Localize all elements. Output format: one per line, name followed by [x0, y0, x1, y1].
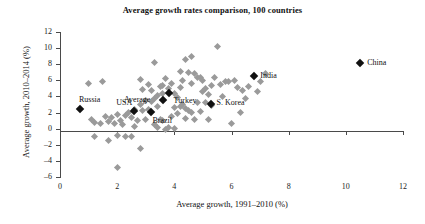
data-point — [179, 77, 186, 84]
data-point — [228, 120, 235, 127]
data-point — [96, 119, 103, 126]
data-point — [237, 109, 244, 116]
data-point — [191, 116, 198, 123]
y-tick-mark — [56, 96, 60, 97]
data-point — [177, 84, 184, 91]
data-point-label: Turkey — [174, 97, 197, 105]
scatter-chart: Average growth rates comparison, 100 cou… — [0, 0, 425, 224]
y-tick-mark — [56, 145, 60, 146]
data-point — [162, 75, 169, 82]
x-tick-label: 6 — [217, 182, 247, 191]
x-tick-mark — [232, 131, 233, 135]
y-tick-mark — [56, 161, 60, 162]
data-point — [211, 74, 218, 81]
x-tick-label: 12 — [388, 182, 418, 191]
data-point-label: India — [260, 72, 276, 80]
data-point-highlighted — [207, 99, 215, 107]
data-point — [136, 76, 143, 83]
data-point — [91, 133, 98, 140]
data-point — [142, 116, 149, 123]
y-tick-mark — [56, 177, 60, 178]
data-point — [199, 77, 206, 84]
data-point-label: Average — [124, 96, 151, 104]
chart-title: Average growth rates comparison, 100 cou… — [0, 5, 425, 15]
x-axis-title: Average growth, 1991–2010 (%) — [60, 199, 404, 209]
data-point-label: Brazil — [152, 117, 172, 125]
data-point — [214, 43, 221, 50]
x-tick-label: 10 — [331, 182, 361, 191]
x-tick-mark — [289, 131, 290, 135]
x-tick-label: 0 — [45, 182, 75, 191]
data-point — [245, 83, 252, 90]
data-point — [188, 80, 195, 87]
data-point — [128, 133, 135, 140]
x-tick-mark — [403, 131, 404, 135]
y-axis-title: Average growth, 2010–2014 (%) — [21, 27, 31, 177]
data-point — [205, 116, 212, 123]
data-point — [177, 68, 184, 75]
x-tick-mark — [60, 131, 61, 135]
data-point — [99, 78, 106, 85]
x-tick-label: 4 — [159, 182, 189, 191]
data-point-label: Russia — [79, 96, 100, 104]
data-point — [114, 164, 121, 171]
x-tick-label: 8 — [274, 182, 304, 191]
data-point — [105, 137, 112, 144]
x-tick-label: 2 — [102, 182, 132, 191]
data-point — [205, 91, 212, 98]
y-tick-mark — [56, 129, 60, 130]
data-point — [85, 80, 92, 87]
data-point — [114, 132, 121, 139]
y-tick-mark — [56, 113, 60, 114]
y-tick-mark — [56, 64, 60, 65]
data-point — [182, 115, 189, 122]
data-point — [151, 59, 158, 66]
data-point — [139, 86, 146, 93]
data-point-highlighted — [147, 108, 155, 116]
data-point — [197, 108, 204, 115]
y-tick-mark — [56, 32, 60, 33]
y-tick-mark — [56, 80, 60, 81]
data-point-highlighted — [159, 96, 167, 104]
data-point-label: China — [367, 59, 386, 67]
data-point — [154, 103, 161, 110]
data-point-highlighted — [164, 89, 172, 97]
data-point — [136, 144, 143, 151]
data-point — [254, 88, 261, 95]
y-axis-line — [60, 32, 61, 178]
data-point-label: S. Korea — [216, 99, 244, 107]
data-point-highlighted — [356, 59, 364, 67]
data-point-highlighted — [76, 105, 84, 113]
x-tick-mark — [346, 131, 347, 135]
y-tick-mark — [56, 48, 60, 49]
